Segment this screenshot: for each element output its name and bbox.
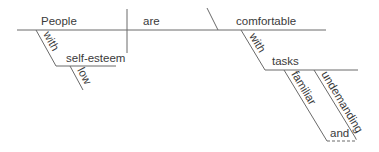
- complement-divider: [207, 8, 218, 30]
- conjunction-dashed-riser: [355, 137, 357, 141]
- word-self-esteem: self-esteem: [66, 52, 125, 64]
- word-undemanding: undemanding: [319, 69, 365, 135]
- word-predicate-adjective: comfortable: [236, 15, 296, 27]
- sentence-diagram: People are comfortable with self-esteem …: [0, 0, 379, 152]
- word-familiar: familiar: [289, 69, 318, 107]
- word-with-2: with: [247, 30, 268, 55]
- word-verb: are: [143, 15, 160, 27]
- word-subject: People: [41, 15, 77, 27]
- word-and: and: [330, 127, 349, 139]
- word-tasks: tasks: [272, 55, 299, 67]
- word-with-1: with: [41, 28, 62, 53]
- word-low: low: [75, 65, 94, 86]
